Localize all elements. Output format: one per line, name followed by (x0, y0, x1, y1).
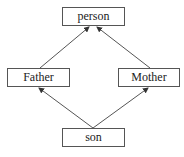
node-mother: Mother (118, 68, 180, 87)
edge-mother-person (97, 27, 150, 68)
edge-father-person (40, 27, 89, 68)
edge-son-mother (93, 88, 148, 128)
node-father: Father (7, 68, 70, 87)
node-person: person (62, 7, 125, 26)
edge-son-father (39, 88, 93, 128)
node-son: son (62, 128, 125, 147)
